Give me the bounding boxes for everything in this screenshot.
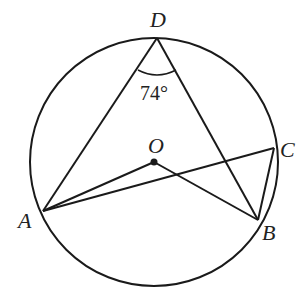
segment-cb [258,148,274,220]
label-b: B [262,220,275,245]
angle-arc-d [138,70,176,75]
label-o: O [148,133,164,158]
geometry-diagram: D O C A B 74° [0,0,300,293]
label-c: C [280,137,295,162]
label-a: A [16,208,32,233]
angle-label-d: 74° [140,82,168,104]
label-d: D [149,7,166,32]
diagram-svg: D O C A B 74° [0,0,300,293]
center-point-o [151,159,158,166]
